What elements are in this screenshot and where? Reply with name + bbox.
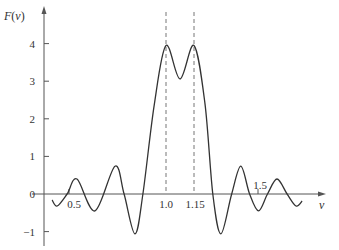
reference-lines bbox=[166, 12, 194, 194]
y-tick-label: 3 bbox=[30, 75, 36, 87]
x-tick-label: 1.5 bbox=[253, 179, 267, 191]
x-tick-label: 1.0 bbox=[159, 198, 173, 210]
y-axis-arrow-icon bbox=[42, 6, 47, 14]
y-tick-label: 4 bbox=[30, 38, 36, 50]
x-axis-arrow-icon bbox=[318, 192, 326, 197]
axes bbox=[32, 6, 326, 246]
x-tick-label: 1.15 bbox=[185, 198, 205, 210]
y-tick-label: −1 bbox=[23, 226, 35, 238]
chart: −101234 0.51.01.151.5 F(ν) ν bbox=[0, 0, 339, 250]
y-tick-label: 1 bbox=[30, 150, 36, 162]
x-axis-label: ν bbox=[319, 198, 325, 212]
series-line-F bbox=[52, 45, 302, 234]
x-tick-label: 0.5 bbox=[67, 198, 81, 210]
y-ticks: −101234 bbox=[23, 38, 49, 238]
y-tick-label: 2 bbox=[30, 113, 36, 125]
y-axis-label: F(ν) bbox=[3, 9, 25, 23]
y-label-close: ) bbox=[21, 9, 25, 23]
y-tick-label: 0 bbox=[30, 188, 36, 200]
